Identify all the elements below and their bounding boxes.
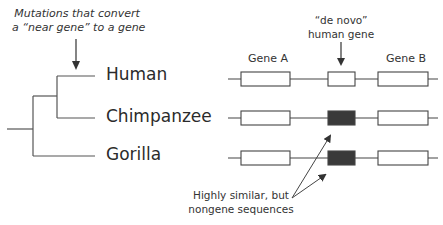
de-novo-line-2: human gene bbox=[306, 27, 376, 41]
gene-b-box bbox=[378, 72, 428, 86]
nongene-sequence-box bbox=[328, 111, 355, 125]
annotation-line-2: a “near gene” to a gene bbox=[12, 21, 142, 35]
mutation-arrow-icon bbox=[72, 39, 80, 70]
annotation-line-1: Mutations that convert bbox=[12, 7, 142, 21]
gene-b-box bbox=[378, 151, 428, 165]
similarity-annotation: Highly similar, but nongene sequences bbox=[188, 188, 294, 216]
similarity-line-2: nongene sequences bbox=[188, 202, 294, 216]
mutation-annotation: Mutations that convert a “near gene” to … bbox=[12, 7, 142, 35]
phylogenetic-tree bbox=[7, 76, 95, 156]
gene-row-human bbox=[228, 72, 438, 86]
species-label-gorilla: Gorilla bbox=[106, 144, 161, 164]
nongene-sequence-box bbox=[328, 151, 355, 165]
de-novo-label: “de novo” human gene bbox=[306, 13, 376, 41]
similarity-line-1: Highly similar, but bbox=[188, 188, 294, 202]
gene-a-box bbox=[241, 111, 290, 125]
gene-a-box bbox=[241, 72, 290, 86]
similarity-arrows-icon bbox=[292, 136, 330, 198]
gene-row-chimpanzee bbox=[228, 111, 438, 125]
gene-a-label: Gene A bbox=[248, 52, 288, 65]
de-novo-arrow-icon bbox=[337, 42, 345, 66]
de-novo-line-1: “de novo” bbox=[306, 13, 376, 27]
gene-row-gorilla bbox=[228, 151, 438, 165]
species-label-human: Human bbox=[106, 64, 167, 84]
gene-b-label: Gene B bbox=[386, 52, 426, 65]
gene-b-box bbox=[378, 111, 428, 125]
de-novo-gene-box bbox=[328, 72, 355, 86]
species-label-chimpanzee: Chimpanzee bbox=[106, 106, 212, 126]
gene-a-box bbox=[241, 151, 290, 165]
